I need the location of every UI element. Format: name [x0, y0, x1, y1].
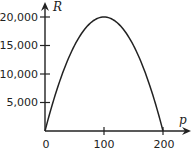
x-axis-label: p	[179, 113, 187, 127]
y-tick-label: 5,000	[7, 96, 39, 109]
chart: 5,000 10,000 15,000 20,000 0 100 200 R p	[0, 0, 195, 152]
y-tick-label: 10,000	[0, 68, 38, 81]
y-tick-label: 20,000	[0, 11, 38, 24]
revenue-curve	[45, 17, 163, 131]
y-tick-label: 15,000	[0, 39, 38, 52]
x-tick-label: 0	[43, 138, 50, 151]
x-tick-label: 200	[154, 138, 175, 151]
y-axis-label: R	[52, 0, 62, 14]
x-tick-label: 100	[94, 138, 115, 151]
